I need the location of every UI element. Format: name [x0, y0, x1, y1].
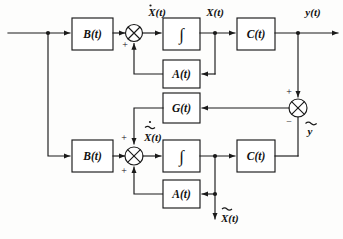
dot-accent-xtildedot: [149, 121, 151, 123]
label-error-ytilde: y: [306, 122, 317, 137]
tilde-accent-xtildedot: [145, 126, 155, 128]
label-output-y: y(t): [303, 6, 320, 19]
block-observer-output-gain-label: C(t): [247, 150, 266, 163]
label-state-derivative: X(t): [147, 4, 166, 19]
label-est-state: X(t): [220, 208, 239, 225]
summing-junction-plant: [126, 25, 143, 42]
svg-text:y: y: [306, 125, 313, 137]
wire-v-branch-to-observer: [48, 33, 70, 156]
block-plant-input-gain-label: B(t): [82, 28, 102, 41]
block-diagram-figure: B(t) + X(t) ∫: [0, 0, 343, 239]
svg-text:X(t): X(t): [147, 6, 166, 19]
block-observer-input-gain-label: B(t): [82, 150, 102, 163]
tilde-accent-xtilde: [222, 208, 232, 210]
sign-error-sum-plus: +: [286, 86, 292, 97]
block-observer-gain-label: G(t): [172, 102, 191, 115]
block-plant-output-gain-label: C(t): [247, 28, 266, 41]
summing-junction-error: [289, 99, 307, 117]
label-est-state-derivative: X(t): [143, 121, 162, 144]
label-state: X(t): [205, 6, 224, 19]
svg-text:X(t): X(t): [220, 212, 239, 225]
sign-plant-sum-plus: +: [122, 39, 128, 50]
block-plant-feedback-gain-label: A(t): [171, 68, 191, 81]
sign-observer-sum-plus-bottom: +: [121, 165, 127, 176]
svg-text:X(t): X(t): [143, 131, 162, 144]
sign-error-sum-minus: −: [286, 116, 292, 127]
summing-junction-observer: [125, 147, 143, 165]
dot-accent-xdot: [149, 4, 151, 6]
sign-observer-sum-plus-top: +: [121, 132, 127, 143]
block-observer-feedback-gain-label: A(t): [171, 188, 191, 201]
diagram-canvas: B(t) + X(t) ∫: [0, 0, 343, 239]
